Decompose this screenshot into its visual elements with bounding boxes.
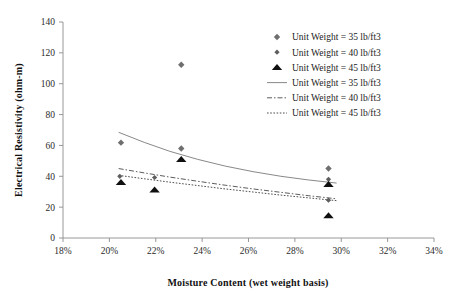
resistivity-scatter-chart: 020406080100120140 18%20%22%24%26%28%30%… [0,0,449,294]
x-axis-ticks: 18%20%22%24%26%28%30%32%34% [54,238,443,256]
x-tick-label: 20% [101,246,119,256]
x-tick-label: 32% [379,246,397,256]
chart-legend: Unit Weight = 35 lb/ft3Unit Weight = 40 … [267,32,381,118]
y-tick-label: 120 [41,48,56,58]
legend-label: Unit Weight = 35 lb/ft3 [292,78,381,88]
x-tick-label: 26% [240,246,258,256]
data-point-triangle [149,187,159,193]
y-axis-title: Electrical Resistivity (ohm-m) [13,63,25,197]
x-tick-label: 24% [193,246,211,256]
y-tick-label: 140 [41,17,56,27]
x-axis-title: Moisture Content (wet weight basis) [167,277,328,289]
y-tick-label: 80 [46,110,56,120]
data-point-triangle [323,212,333,218]
legend-label: Unit Weight = 40 lb/ft3 [292,93,381,103]
data-point-diamond [178,62,184,68]
y-tick-label: 40 [46,172,56,182]
legend-label: Unit Weight = 35 lb/ft3 [292,32,381,42]
data-point-triangle [116,179,126,185]
chart-figure: 020406080100120140 18%20%22%24%26%28%30%… [0,0,449,294]
y-tick-label: 100 [41,79,56,89]
y-tick-label: 20 [46,203,56,213]
legend-glyph-diamond [274,34,280,40]
x-tick-label: 18% [54,246,72,256]
x-tick-label: 34% [425,246,443,256]
x-tick-label: 28% [286,246,304,256]
y-tick-label: 60 [46,141,56,151]
legend-label: Unit Weight = 40 lb/ft3 [292,48,381,58]
data-point-diamond-small [152,175,157,180]
data-point-diamond [325,165,331,171]
y-tick-label: 0 [50,233,55,243]
data-point-triangle [176,156,186,162]
legend-glyph-diamond-small [274,50,279,55]
legend-label: Unit Weight = 45 lb/ft3 [292,63,381,73]
data-point-diamond-small [117,174,122,179]
legend-label: Unit Weight = 45 lb/ft3 [292,108,381,118]
trend-line-solid [119,132,337,183]
y-axis-ticks: 020406080100120140 [41,17,63,243]
data-point-diamond [118,139,124,145]
legend-glyph-triangle [272,64,282,70]
x-tick-label: 22% [147,246,165,256]
x-tick-label: 30% [333,246,351,256]
data-point-diamond [178,145,184,151]
trend-line-dash-dot [119,169,337,199]
